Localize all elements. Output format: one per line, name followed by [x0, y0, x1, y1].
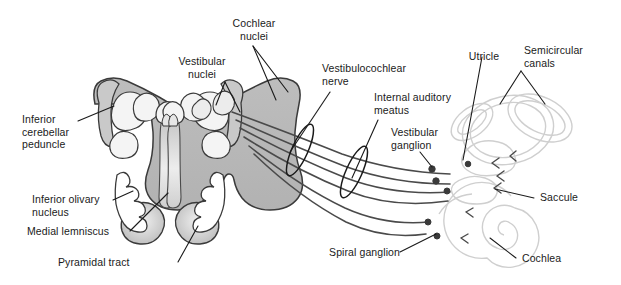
medial-lemniscus-shape-2: [167, 120, 181, 208]
label-vestibular-ganglion: Vestibular ganglion: [391, 126, 475, 151]
vestibular-ganglion-dot: [433, 178, 439, 184]
label-saccule: Saccule: [540, 191, 610, 204]
vestibular-ganglion-dot: [444, 188, 450, 194]
label-vestibulocochlear-nerve: Vestibulocochlear nerve: [322, 62, 442, 87]
label-inferior-olivary-nucleus: Inferior olivary nucleus: [32, 193, 120, 218]
meatus-ring: [335, 143, 372, 201]
label-spiral-ganglion: Spiral ganglion: [308, 246, 400, 259]
leader-spiral-ganglion: [400, 234, 436, 252]
label-cochlea: Cochlea: [522, 252, 592, 265]
label-semicircular-canals: Semicircular canals: [524, 44, 618, 69]
nucleus-shape: [133, 93, 159, 121]
leader-semicircular-canals: [500, 71, 521, 104]
leader-vestibular-ganglion: [420, 152, 432, 167]
label-inferior-cerebellar-peduncle: Inferior cerebellar peduncle: [22, 113, 94, 151]
label-internal-auditory-meatus: Internal auditory meatus: [374, 91, 490, 116]
spiral-ganglion-dot: [434, 233, 440, 239]
label-utricle: Utricle: [456, 50, 512, 63]
label-cochlear-nuclei: Cochlear nuclei: [208, 17, 300, 42]
label-vestibular-nuclei: Vestibular nuclei: [152, 55, 252, 80]
leader-cochlea: [490, 238, 516, 258]
label-medial-lemniscus: Medial lemniscus: [27, 225, 133, 238]
spiral-ganglion-dot: [425, 219, 431, 225]
vestibular-ganglion-dot: [465, 161, 471, 167]
nucleus-shape: [110, 131, 138, 158]
anatomy-figure: Cochlear nuclei Vestibular nuclei Vestib…: [0, 0, 621, 285]
nucleus-shape: [202, 131, 230, 158]
leader-internal-auditory-meatus: [352, 120, 378, 178]
label-pyramidal-tract: Pyramidal tract: [58, 256, 178, 269]
brainstem-group: [94, 78, 303, 244]
